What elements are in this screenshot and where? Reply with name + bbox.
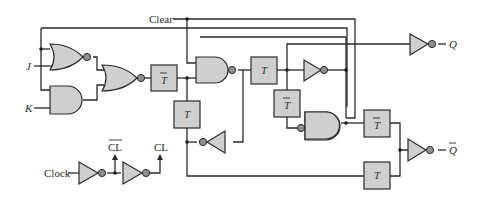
wires	[34, 19, 446, 176]
arrow-up-icon	[157, 154, 163, 160]
clock-label: Clock	[44, 167, 71, 179]
inverter-slave	[304, 60, 328, 81]
tg-box-6: T	[364, 162, 390, 189]
nand-gate-master	[196, 57, 236, 83]
clear-label: Clear	[149, 13, 173, 25]
svg-text:T: T	[284, 99, 291, 111]
svg-text:T: T	[261, 64, 268, 76]
inverter-qbar-output	[408, 139, 434, 161]
inverter-clock-2	[123, 162, 150, 184]
svg-text:T: T	[161, 74, 168, 86]
jk-flipflop-diagram: T T T T T T Clear J K Clock Q Q	[0, 0, 483, 200]
svg-text:T: T	[374, 169, 381, 181]
k-label: K	[24, 102, 33, 114]
inverter-q-output	[410, 34, 436, 55]
nand-gate-slave	[297, 112, 340, 140]
j-label: J	[26, 60, 32, 72]
tg-box-1: T	[151, 65, 177, 91]
cl-bar-label-group: CL	[108, 140, 122, 153]
inverter-clock-1	[79, 162, 106, 184]
arrow-up-icon	[112, 154, 118, 160]
cl-bar-label: CL	[108, 141, 122, 153]
svg-text:T: T	[374, 119, 381, 131]
and-gate-k	[50, 86, 82, 114]
tg-box-3: T	[251, 57, 277, 84]
tg-box-4: T	[274, 90, 300, 117]
nor-gate-combine	[102, 65, 145, 91]
svg-text:T: T	[184, 108, 191, 120]
tg-box-2: T	[174, 101, 200, 128]
nor-gate-j	[50, 44, 91, 70]
inverter-feedback	[199, 131, 225, 153]
tg-box-5: T	[364, 110, 390, 137]
cl-label: CL	[154, 141, 168, 153]
q-output-label: Q	[449, 38, 457, 50]
clock-arrows	[112, 154, 163, 160]
qbar-output-label: Q	[449, 144, 457, 156]
qbar-output-label-group: Q	[449, 143, 457, 156]
